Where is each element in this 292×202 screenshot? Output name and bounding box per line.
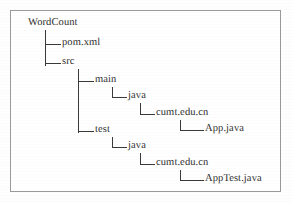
tree-node-main: main — [95, 74, 116, 85]
tree-node-wordcount: WordCount — [28, 17, 78, 28]
directory-tree-screenshot: WordCountpom.xmlsrcmainjavacumt.edu.cnAp… — [0, 0, 292, 202]
tree-node-test-pkg: cumt.edu.cn — [156, 157, 208, 168]
tree-node-src: src — [62, 56, 75, 67]
tree-node-app-java: App.java — [205, 123, 244, 134]
tree-node-test: test — [95, 124, 110, 135]
tree-node-main-pkg: cumt.edu.cn — [156, 107, 208, 118]
tree-node-test-java: java — [128, 140, 146, 151]
tree-node-apptest: AppTest.java — [205, 173, 262, 184]
tree-node-pomxml: pom.xml — [62, 37, 100, 48]
tree-connector-lines — [0, 0, 292, 202]
tree-node-main-java: java — [128, 90, 146, 101]
